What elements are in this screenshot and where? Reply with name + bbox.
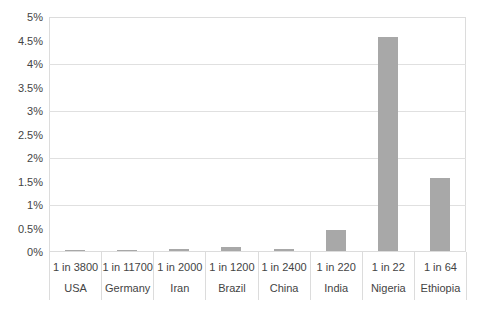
country-name-label: Ethiopia: [421, 282, 461, 294]
country-name-label: Iran: [170, 282, 189, 294]
bar-chart: 0%0.5%1%1.5%2%2.5%3%3.5%4%4.5%5% 1 in 38…: [0, 0, 478, 311]
country-name-label: Nigeria: [371, 282, 406, 294]
gridline: [49, 205, 466, 206]
bar-india: [326, 230, 346, 251]
category-cell-iran: 1 in 2000Iran: [154, 252, 206, 300]
y-axis-tick-label: 3%: [0, 105, 43, 117]
bar-usa: [65, 250, 85, 251]
y-axis-tick-label: 5%: [0, 11, 43, 23]
country-name-label: Germany: [105, 282, 150, 294]
bar-nigeria: [378, 37, 398, 251]
y-axis-tick-label: 3.5%: [0, 82, 43, 94]
ratio-label: 1 in 220: [317, 261, 356, 273]
y-axis-tick-label: 1%: [0, 199, 43, 211]
y-axis-tick-label: 2.5%: [0, 129, 43, 141]
y-axis-tick-label: 4%: [0, 58, 43, 70]
category-cell-brazil: 1 in 1200Brazil: [206, 252, 258, 300]
y-axis-tick-label: 0%: [0, 246, 43, 258]
gridline: [49, 64, 466, 65]
category-cell-nigeria: 1 in 22Nigeria: [363, 252, 415, 300]
ratio-label: 1 in 64: [424, 261, 457, 273]
ratio-label: 1 in 3800: [53, 261, 98, 273]
country-name-label: India: [324, 282, 348, 294]
category-cell-ethiopia: 1 in 64Ethiopia: [415, 252, 467, 300]
ratio-label: 1 in 22: [372, 261, 405, 273]
bar-brazil: [221, 247, 241, 251]
ratio-label: 1 in 2000: [157, 261, 202, 273]
category-cell-germany: 1 in 11700Germany: [102, 252, 154, 300]
bar-ethiopia: [430, 178, 450, 251]
y-axis-tick-label: 2%: [0, 152, 43, 164]
gridline: [49, 158, 466, 159]
y-axis-tick-label: 1.5%: [0, 176, 43, 188]
y-axis-tick-label: 0.5%: [0, 223, 43, 235]
x-axis-label-area: 1 in 3800USA1 in 11700Germany1 in 2000Ir…: [49, 252, 467, 300]
category-cell-usa: 1 in 3800USA: [50, 252, 102, 300]
plot-area: [49, 17, 466, 252]
bar-iran: [169, 249, 189, 251]
y-axis-tick-label: 4.5%: [0, 35, 43, 47]
country-name-label: Brazil: [218, 282, 246, 294]
bar-china: [274, 249, 294, 251]
ratio-label: 1 in 1200: [209, 261, 254, 273]
ratio-label: 1 in 11700: [102, 261, 153, 273]
gridline: [49, 111, 466, 112]
category-cell-india: 1 in 220India: [311, 252, 363, 300]
country-name-label: USA: [64, 282, 87, 294]
country-name-label: China: [270, 282, 299, 294]
category-cell-china: 1 in 2400China: [259, 252, 311, 300]
ratio-label: 1 in 2400: [261, 261, 306, 273]
bar-germany: [117, 250, 137, 251]
